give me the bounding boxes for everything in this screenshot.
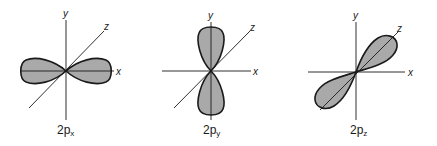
y-axis-label: y (352, 10, 359, 21)
orbital-2pz: y x z 2pz (308, 10, 414, 138)
z-axis-label: z (249, 22, 255, 33)
x-axis-label: x (252, 66, 259, 77)
x-axis-label: x (115, 66, 122, 77)
orbital-label-sub: z (363, 129, 367, 138)
orbital-label-main: 2p (57, 123, 71, 137)
y-axis-label: y (207, 10, 214, 21)
orbital-label-2pz: 2pz (350, 123, 367, 138)
y-axis-label: y (62, 8, 69, 19)
orbital-label-2py: 2py (203, 123, 220, 138)
z-axis-label: z (103, 21, 109, 32)
z-axis (320, 32, 398, 110)
z-axis-label: z (396, 23, 402, 34)
orbital-label-main: 2p (203, 123, 217, 137)
orbital-label-2px: 2px (57, 123, 74, 138)
orbital-2py: y x z 2py (162, 10, 259, 138)
orbital-2px: y x z 2px (20, 8, 122, 138)
orbital-label-main: 2p (350, 123, 364, 137)
x-axis-label: x (407, 67, 414, 78)
orbital-label-sub: x (70, 129, 74, 138)
lobe-negative-z (315, 72, 356, 108)
orbital-diagram: y x z 2px y x z 2py y x z (0, 0, 437, 146)
orbital-label-sub: y (216, 129, 220, 138)
